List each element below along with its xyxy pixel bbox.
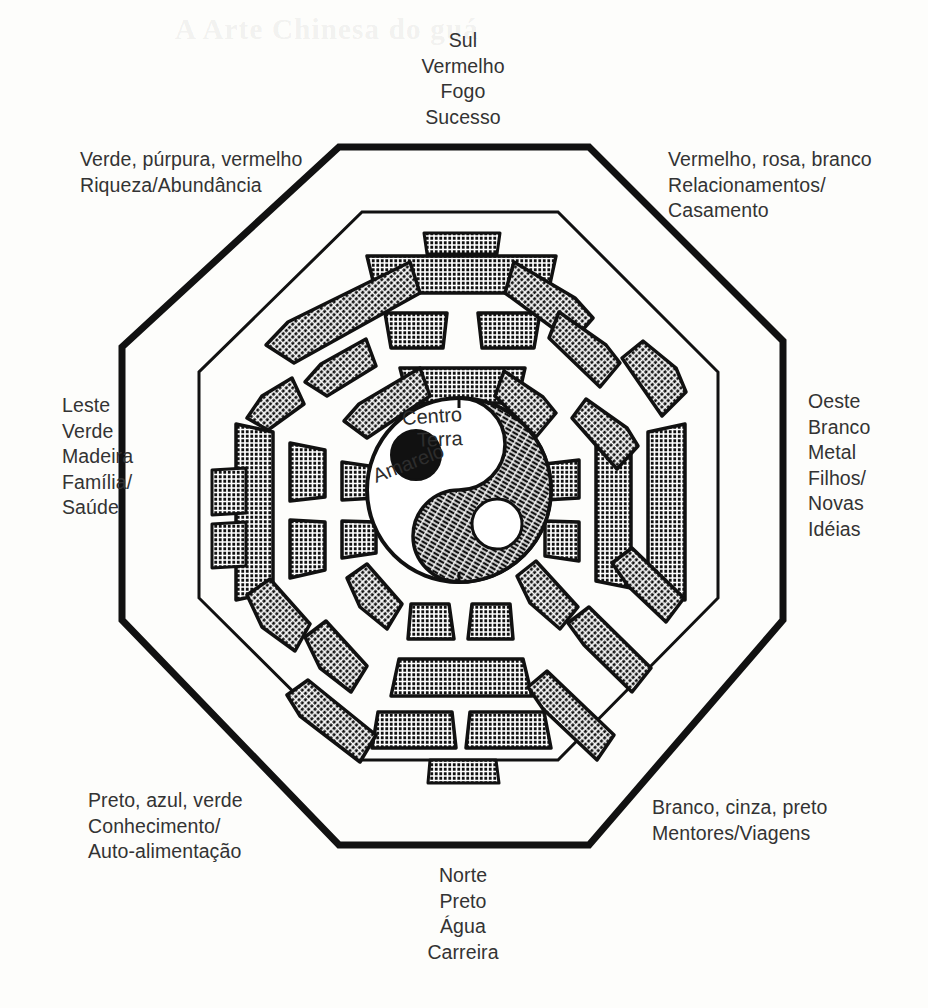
yin-yang-symbol [367, 398, 551, 582]
diagram-stage: A Arte Chinesa do guá [0, 0, 928, 1008]
trigram-norte [372, 604, 551, 748]
sector-label-leste: Leste Verde Madeira Família/ Saúde [62, 393, 212, 521]
sector-label-oeste: Oeste Branco Metal Filhos/ Novas Idéias [808, 389, 928, 542]
center-label-centro: Centro [401, 403, 462, 429]
sector-label-sudeste: Verde, púrpura, vermelho Riqueza/Abundân… [80, 147, 330, 198]
sector-label-sul: Sul Vermelho Fogo Sucesso [343, 28, 583, 130]
sector-label-noroeste: Branco, cinza, preto Mentores/Viagens [652, 795, 912, 846]
sector-label-sudoeste: Vermelho, rosa, branco Relacionamentos/ … [668, 147, 928, 224]
sector-label-norte: Norte Preto Água Carreira [343, 863, 583, 965]
sector-label-nordeste: Preto, azul, verde Conhecimento/ Auto-al… [88, 788, 338, 865]
